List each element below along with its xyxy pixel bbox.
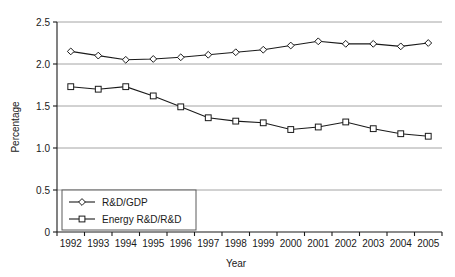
- x-tick-label: 1999: [252, 238, 275, 249]
- y-tick-label: 1.5: [36, 101, 50, 112]
- diamond-marker: [205, 51, 212, 58]
- x-tick-label: 1996: [170, 238, 193, 249]
- gridlines: [57, 22, 442, 190]
- square-marker: [205, 115, 211, 121]
- diamond-marker: [370, 40, 377, 47]
- square-marker: [150, 93, 156, 99]
- x-tick-label: 1994: [115, 238, 138, 249]
- square-marker: [233, 118, 239, 124]
- diamond-marker: [95, 52, 102, 59]
- square-marker: [79, 216, 85, 222]
- square-marker: [260, 120, 266, 126]
- x-tick-label: 1992: [60, 238, 83, 249]
- diamond-marker: [425, 40, 432, 47]
- x-tick-label: 2001: [307, 238, 330, 249]
- y-tick-label: 0.5: [36, 185, 50, 196]
- chart-container: Percentage Year 00.51.01.52.02.5 1992199…: [0, 0, 455, 277]
- x-tick-label: 2003: [362, 238, 385, 249]
- x-axis-title: Year: [226, 258, 247, 269]
- square-marker: [398, 131, 404, 137]
- diamond-marker: [122, 56, 129, 63]
- diamond-marker: [150, 56, 157, 63]
- line-chart: Percentage Year 00.51.01.52.02.5 1992199…: [0, 0, 455, 277]
- x-tick-label: 2005: [417, 238, 440, 249]
- square-marker: [315, 124, 321, 130]
- diamond-marker: [232, 49, 239, 56]
- x-tick-label: 1993: [87, 238, 110, 249]
- y-tick-label: 2.0: [36, 59, 50, 70]
- data-series: [67, 38, 431, 63]
- square-marker: [178, 104, 184, 110]
- square-marker: [343, 119, 349, 125]
- x-tick-label: 1995: [142, 238, 165, 249]
- diamond-marker: [177, 54, 184, 61]
- square-marker: [68, 84, 74, 90]
- x-tick-label: 2004: [390, 238, 413, 249]
- diamond-marker: [67, 48, 74, 55]
- y-axis-ticks: 00.51.01.52.02.5: [36, 17, 57, 238]
- square-marker: [425, 133, 431, 139]
- y-tick-label: 0: [44, 227, 50, 238]
- square-marker: [370, 126, 376, 132]
- legend-marker: [79, 216, 85, 222]
- data-series: [68, 84, 431, 139]
- y-axis-title: Percentage: [10, 101, 21, 153]
- legend-label: R&D/GDP: [102, 197, 148, 208]
- y-tick-label: 1.0: [36, 143, 50, 154]
- legend-label: Energy R&D/R&D: [102, 214, 181, 225]
- x-tick-label: 2000: [280, 238, 303, 249]
- diamond-marker: [397, 43, 404, 50]
- x-axis-ticks: 1992199319941995199619971998199920002001…: [57, 232, 442, 249]
- diamond-marker: [342, 40, 349, 47]
- diamond-marker: [287, 42, 294, 49]
- x-tick-label: 1998: [225, 238, 248, 249]
- series-group: [67, 38, 431, 139]
- square-marker: [123, 84, 129, 90]
- diamond-marker: [315, 38, 322, 45]
- diamond-marker: [260, 46, 267, 53]
- square-marker: [95, 86, 101, 92]
- chart-legend: R&D/GDPEnergy R&D/R&D: [62, 190, 196, 230]
- square-marker: [288, 127, 294, 133]
- x-tick-label: 2002: [335, 238, 358, 249]
- x-tick-label: 1997: [197, 238, 220, 249]
- y-tick-label: 2.5: [36, 17, 50, 28]
